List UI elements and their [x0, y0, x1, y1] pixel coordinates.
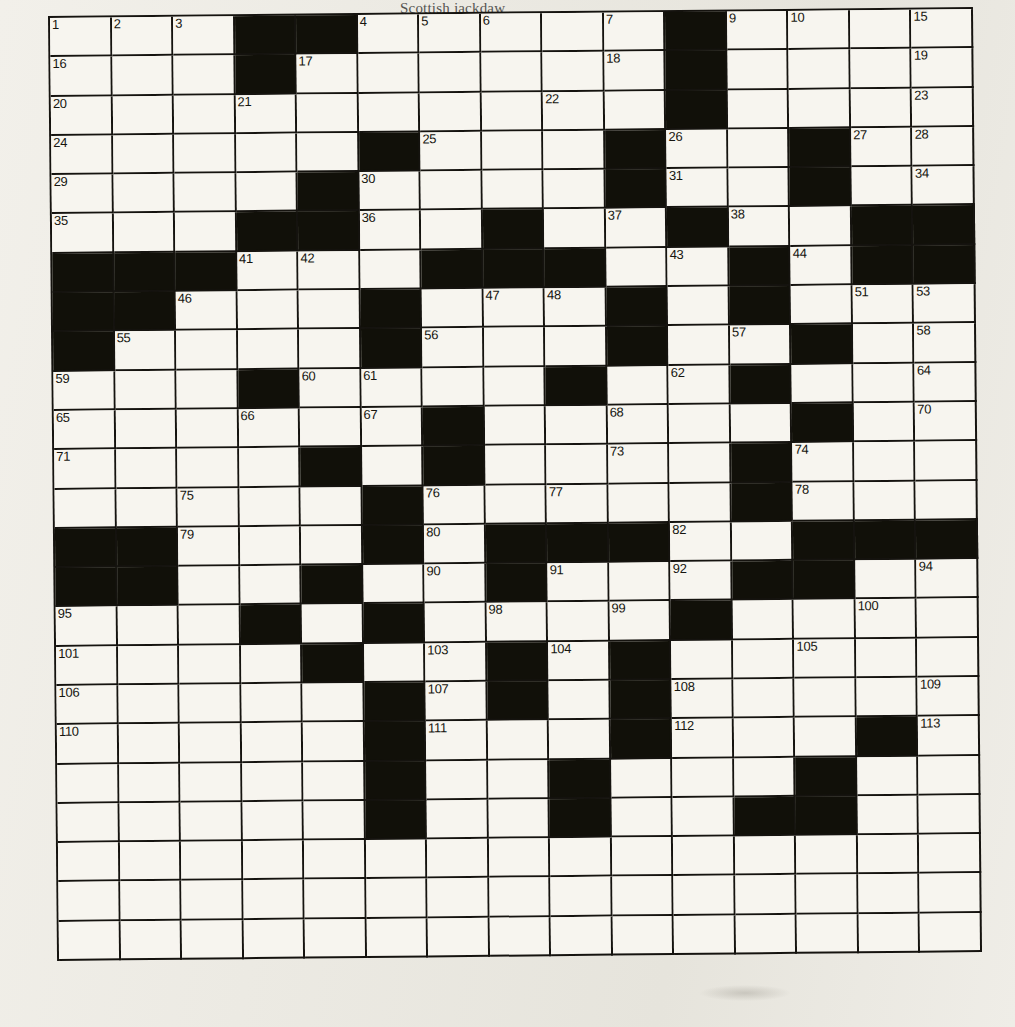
grid-cell[interactable]: 71: [54, 450, 116, 490]
grid-cell[interactable]: 58: [914, 323, 976, 363]
grid-cell[interactable]: 82: [670, 522, 732, 562]
grid-cell[interactable]: 79: [178, 527, 240, 567]
grid-cell[interactable]: [609, 562, 671, 602]
grid-cell[interactable]: [855, 560, 917, 600]
grid-cell[interactable]: [920, 873, 982, 913]
grid-cell[interactable]: [297, 133, 359, 173]
grid-cell[interactable]: [304, 801, 366, 841]
grid-cell[interactable]: 65: [54, 410, 116, 450]
grid-cell[interactable]: [366, 840, 428, 880]
grid-cell[interactable]: 17: [297, 54, 359, 94]
grid-cell[interactable]: 2: [112, 17, 174, 57]
grid-cell[interactable]: [608, 484, 670, 524]
grid-cell[interactable]: [858, 874, 920, 914]
grid-cell[interactable]: [733, 640, 795, 680]
grid-cell[interactable]: 15: [911, 9, 973, 49]
grid-cell[interactable]: [239, 487, 301, 527]
grid-cell[interactable]: [857, 756, 919, 796]
grid-cell[interactable]: [113, 213, 175, 253]
grid-cell[interactable]: [181, 881, 243, 921]
grid-cell[interactable]: [548, 602, 610, 642]
grid-cell[interactable]: [303, 683, 365, 723]
grid-cell[interactable]: [237, 291, 299, 331]
grid-cell[interactable]: [482, 170, 544, 210]
grid-cell[interactable]: [544, 170, 606, 210]
grid-cell[interactable]: [728, 89, 790, 129]
grid-cell[interactable]: [612, 916, 674, 956]
grid-cell[interactable]: [421, 210, 483, 250]
grid-cell[interactable]: [728, 168, 790, 208]
grid-cell[interactable]: [174, 134, 236, 174]
grid-cell[interactable]: [426, 760, 488, 800]
grid-cell[interactable]: 75: [178, 488, 240, 528]
grid-cell[interactable]: [672, 758, 734, 798]
grid-cell[interactable]: [735, 875, 797, 915]
grid-cell[interactable]: [422, 289, 484, 329]
grid-cell[interactable]: 10: [788, 10, 850, 50]
grid-cell[interactable]: [120, 920, 182, 960]
grid-cell[interactable]: [427, 839, 489, 879]
grid-cell[interactable]: [360, 250, 422, 290]
grid-cell[interactable]: [546, 445, 608, 485]
grid-cell[interactable]: 53: [914, 284, 976, 324]
grid-cell[interactable]: [605, 91, 667, 131]
grid-cell[interactable]: 66: [238, 409, 300, 449]
grid-cell[interactable]: [175, 173, 237, 213]
grid-cell[interactable]: [177, 448, 239, 488]
grid-cell[interactable]: [176, 331, 238, 371]
grid-cell[interactable]: [673, 797, 735, 837]
grid-cell[interactable]: [181, 802, 243, 842]
grid-cell[interactable]: 105: [794, 639, 856, 679]
grid-cell[interactable]: [115, 410, 177, 450]
grid-cell[interactable]: [366, 918, 428, 958]
grid-cell[interactable]: [297, 94, 359, 134]
grid-cell[interactable]: 61: [361, 368, 423, 408]
grid-cell[interactable]: [734, 757, 796, 797]
grid-cell[interactable]: [236, 133, 298, 173]
grid-cell[interactable]: [179, 684, 241, 724]
grid-cell[interactable]: [241, 644, 303, 684]
grid-cell[interactable]: [919, 834, 981, 874]
grid-cell[interactable]: 107: [426, 682, 488, 722]
grid-cell[interactable]: [301, 526, 363, 566]
grid-cell[interactable]: 60: [300, 369, 362, 409]
grid-cell[interactable]: 27: [851, 128, 913, 168]
grid-cell[interactable]: [173, 55, 235, 95]
grid-cell[interactable]: [854, 442, 916, 482]
grid-cell[interactable]: [236, 173, 298, 213]
grid-cell[interactable]: [420, 92, 482, 132]
grid-cell[interactable]: [728, 129, 790, 169]
grid-cell[interactable]: 48: [545, 288, 607, 328]
grid-cell[interactable]: 23: [912, 88, 974, 128]
grid-cell[interactable]: [304, 879, 366, 919]
grid-cell[interactable]: [178, 566, 240, 606]
grid-cell[interactable]: 64: [915, 363, 977, 403]
grid-cell[interactable]: [669, 444, 731, 484]
grid-cell[interactable]: [118, 645, 180, 685]
grid-cell[interactable]: 108: [672, 679, 734, 719]
grid-cell[interactable]: [59, 921, 121, 961]
grid-cell[interactable]: 36: [360, 211, 422, 251]
grid-cell[interactable]: 5: [419, 14, 481, 54]
grid-cell[interactable]: 103: [425, 642, 487, 682]
grid-cell[interactable]: 80: [424, 525, 486, 565]
grid-cell[interactable]: [551, 916, 613, 956]
grid-cell[interactable]: [727, 50, 789, 90]
grid-cell[interactable]: [177, 409, 239, 449]
grid-cell[interactable]: [611, 759, 673, 799]
grid-cell[interactable]: [670, 483, 732, 523]
grid-cell[interactable]: [488, 720, 550, 760]
grid-cell[interactable]: [733, 679, 795, 719]
grid-cell[interactable]: [668, 326, 730, 366]
grid-cell[interactable]: 106: [56, 685, 118, 725]
grid-cell[interactable]: [358, 54, 420, 94]
grid-cell[interactable]: [299, 329, 361, 369]
grid-cell[interactable]: [736, 915, 798, 955]
grid-cell[interactable]: [174, 95, 236, 135]
grid-cell[interactable]: 4: [358, 14, 420, 54]
grid-cell[interactable]: [853, 363, 915, 403]
grid-cell[interactable]: [116, 488, 178, 528]
grid-cell[interactable]: [421, 171, 483, 211]
grid-cell[interactable]: 37: [606, 209, 668, 249]
grid-cell[interactable]: [117, 606, 179, 646]
